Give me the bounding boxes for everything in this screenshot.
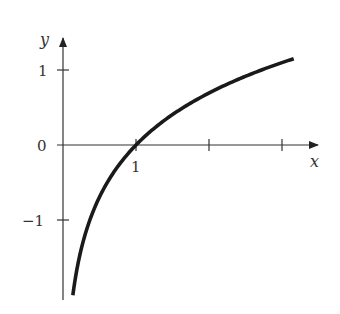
- x-axis-label: x: [310, 152, 319, 171]
- log-function-plot: y x 1 0 −1 1: [0, 0, 340, 314]
- y-axis-label: y: [39, 30, 50, 49]
- y-tick-label-1: 1: [38, 62, 48, 80]
- x-tick-label-1: 1: [131, 158, 141, 176]
- y-tick-label-0: 0: [37, 137, 47, 155]
- ln-curve: [73, 59, 294, 295]
- y-tick-label-neg1: −1: [22, 212, 44, 230]
